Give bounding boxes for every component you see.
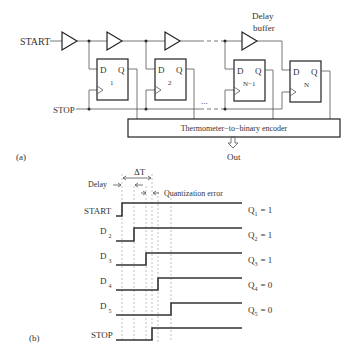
flipflop-n-minus-1: D Q N−1 xyxy=(234,60,265,101)
signal-stop: STOP xyxy=(91,328,242,340)
flipflop-n: D Q N xyxy=(290,61,321,102)
tdc-diagram: START Delay buffer STOP xyxy=(0,0,356,364)
delay-label: Delay xyxy=(88,180,107,189)
svg-text:D2: D2 xyxy=(100,226,112,239)
svg-text:2: 2 xyxy=(168,79,172,87)
stop-input-label: STOP xyxy=(53,105,75,115)
svg-text:Q: Q xyxy=(118,65,125,75)
output-arrow-icon xyxy=(228,137,238,148)
svg-text:1: 1 xyxy=(110,79,114,87)
flipflop-1: D Q 1 xyxy=(97,59,128,100)
svg-text:Q: Q xyxy=(176,65,183,75)
ellipsis: ... xyxy=(201,96,208,106)
delay-buffer-icon xyxy=(62,32,77,50)
delay-line-circuit: START Delay buffer STOP xyxy=(16,11,340,162)
svg-text:D: D xyxy=(293,67,300,77)
svg-text:Q4= 0: Q4= 0 xyxy=(248,280,273,292)
start-input-label: START xyxy=(20,36,50,47)
svg-text:D: D xyxy=(100,65,107,75)
svg-text:D4: D4 xyxy=(100,276,112,289)
signal-d4: D4 Q4= 0 xyxy=(100,276,273,292)
svg-text:START: START xyxy=(84,206,112,216)
svg-text:D5: D5 xyxy=(100,301,112,314)
svg-text:Q3= 1: Q3= 1 xyxy=(248,255,272,267)
svg-text:Q1= 1: Q1= 1 xyxy=(248,205,272,217)
out-label: Out xyxy=(227,152,241,162)
delay-buffer-icon xyxy=(107,32,122,50)
svg-text:D: D xyxy=(237,66,244,76)
svg-text:N: N xyxy=(304,81,309,89)
part-b-label: (b) xyxy=(29,333,40,343)
delay-buffer-icon xyxy=(242,32,257,50)
svg-text:Q: Q xyxy=(255,66,262,76)
svg-text:Q5= 0: Q5= 0 xyxy=(248,305,273,317)
delta-t-label: ΔT xyxy=(134,167,146,177)
svg-text:N−1: N−1 xyxy=(243,80,256,88)
delay-buffer-icon xyxy=(165,32,180,50)
signal-d5: D5 Q5= 0 xyxy=(100,301,273,317)
flipflop-2: D Q 2 xyxy=(155,59,186,100)
svg-text:STOP: STOP xyxy=(91,330,113,340)
svg-text:Q2= 1: Q2= 1 xyxy=(248,230,272,242)
signal-d3: D3 Q3= 1 xyxy=(100,251,272,267)
signal-start: START Q1= 1 xyxy=(84,203,272,217)
svg-text:Q: Q xyxy=(311,67,318,77)
svg-text:D3: D3 xyxy=(100,251,112,264)
svg-text:D: D xyxy=(158,65,165,75)
encoder-label: Thermometer−to−binary encoder xyxy=(181,124,288,133)
delay-buffer-label: buffer xyxy=(253,23,275,33)
part-a-label: (a) xyxy=(16,152,26,162)
timing-diagram: ΔT Delay Quantization error START Q1= 1 … xyxy=(29,167,273,343)
signal-d2: D2 Q2= 1 xyxy=(100,226,272,242)
quantization-error-label: Quantization error xyxy=(164,189,223,198)
delay-buffer-label: Delay xyxy=(252,11,274,21)
